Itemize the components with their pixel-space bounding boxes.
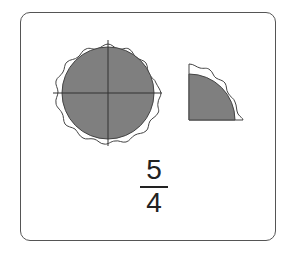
fraction-numerator: 5 xyxy=(136,156,172,184)
quarter-piece-filling xyxy=(189,74,235,120)
fraction-denominator: 4 xyxy=(136,189,172,217)
fraction-label: 5 4 xyxy=(136,156,172,217)
quarter-piece xyxy=(189,64,243,120)
whole-pie xyxy=(53,40,162,146)
